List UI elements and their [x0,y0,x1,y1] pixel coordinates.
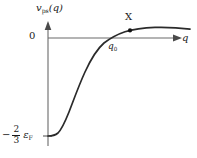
point-x-label: X [125,12,132,22]
y-axis-arrowhead [45,21,52,30]
y-axis-label: vps(q) [36,3,63,13]
fermi-subscript: F [29,134,33,141]
y-axis-label-variable: v [36,2,42,13]
x-axis-arrowhead [173,35,182,42]
y-axis-label-argument: (q) [49,2,63,13]
y-axis [45,21,52,146]
fermi-energy-symbol: εF [23,130,33,140]
fraction-numerator: 2 [12,125,20,134]
fraction-denominator: 3 [12,136,20,145]
epsilon-symbol: ε [23,129,28,140]
x-axis-label: q [182,33,188,43]
fraction-two-thirds: 2 3 [12,125,20,146]
pseudopotential-figure: vps(q) 0 q q0 X − 2 3 εF [0,0,197,158]
crossing-point-label: q0 [108,42,117,51]
pseudopotential-curve [48,27,190,136]
point-x-marker [128,28,132,32]
y-axis-label-subscript: ps [42,7,49,14]
crossing-point-variable: q [108,41,114,51]
minimum-value-label: − 2 3 εF [2,125,33,146]
zero-tick-label: 0 [29,31,35,41]
minus-sign: − [2,130,10,140]
crossing-point-subscript: 0 [114,46,118,52]
